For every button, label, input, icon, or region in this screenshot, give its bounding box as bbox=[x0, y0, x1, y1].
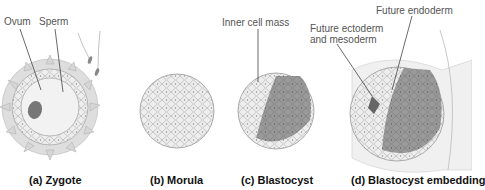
future-ectoderm-label: Future ectoderm bbox=[310, 23, 383, 34]
and-mesoderm-label: and mesoderm bbox=[310, 34, 377, 45]
blastocyst-illustration bbox=[238, 29, 314, 149]
morula-illustration bbox=[140, 74, 214, 148]
caption-blastocyst-embedding: (d) Blastocyst embedding bbox=[351, 174, 485, 186]
caption-blastocyst: (c) Blastocyst bbox=[241, 174, 313, 186]
caption-zygote: (a) Zygote bbox=[29, 174, 82, 186]
zygote-illustration bbox=[0, 29, 100, 160]
future-endoderm-label: Future endoderm bbox=[376, 5, 453, 16]
ovum-label: Ovum bbox=[4, 16, 31, 27]
sperm-label: Sperm bbox=[39, 16, 68, 27]
caption-morula: (b) Morula bbox=[150, 174, 203, 186]
inner-cell-mass-label: Inner cell mass bbox=[222, 17, 289, 28]
